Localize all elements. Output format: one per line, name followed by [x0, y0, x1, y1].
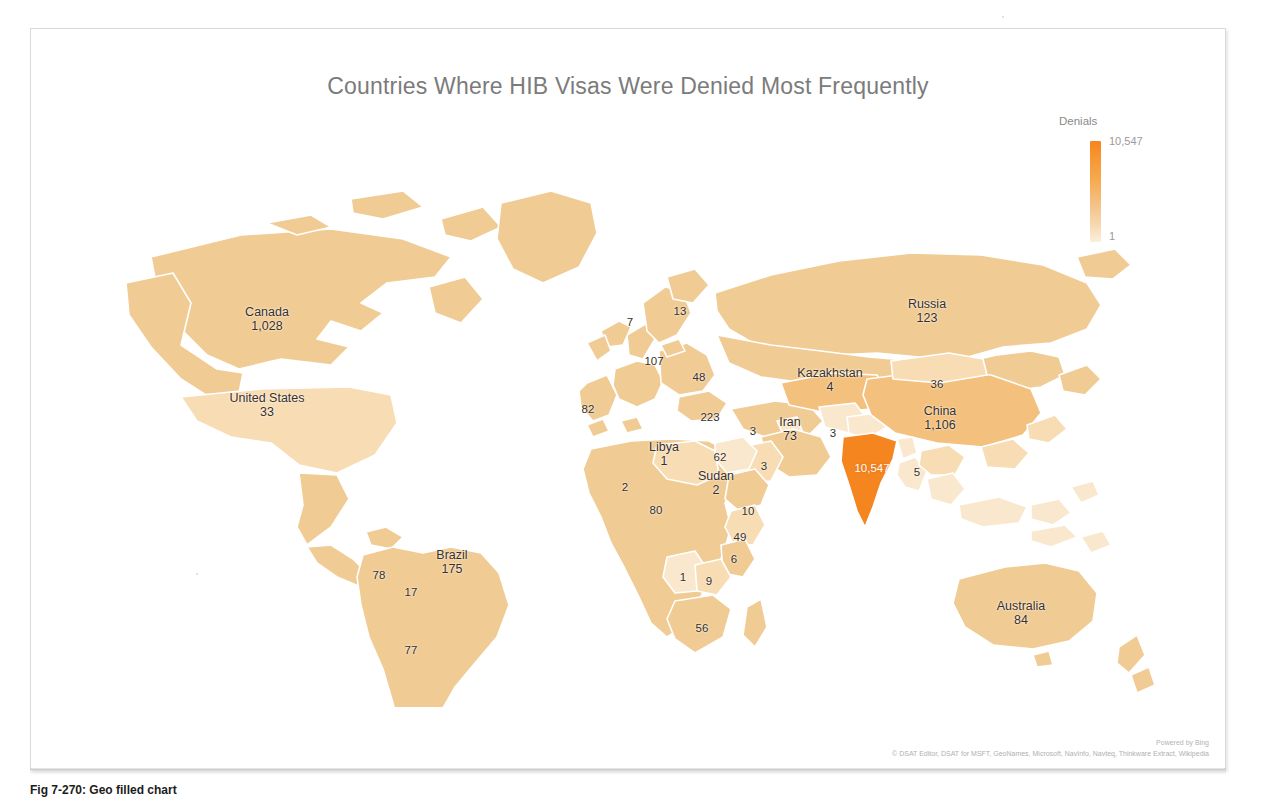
map-region-shape[interactable] [677, 391, 727, 421]
map-region-shape[interactable] [667, 269, 709, 303]
map-region-shape[interactable] [959, 497, 1027, 527]
map-region-shape[interactable] [151, 229, 451, 369]
screenshot-page: Countries Where HIB Visas Were Denied Mo… [0, 0, 1287, 803]
map-region-shape[interactable] [357, 547, 509, 707]
map-region-shape[interactable] [1131, 667, 1155, 693]
world-map-svg[interactable] [31, 107, 1226, 707]
map-region-shape[interactable] [919, 445, 965, 475]
map-region-shape[interactable] [579, 375, 617, 421]
map-region-shape[interactable] [351, 191, 423, 219]
map-region-shape[interactable] [1077, 249, 1131, 279]
geo-chart-card: Countries Where HIB Visas Were Denied Mo… [30, 28, 1226, 770]
map-region-shape[interactable] [1031, 499, 1071, 525]
map-region-shape[interactable] [297, 473, 349, 545]
map-region-shape[interactable] [613, 361, 663, 407]
powered-by-bing-text: Powered by Bing [892, 738, 1209, 749]
page-title: Countries Where HIB Visas Were Denied Mo… [31, 73, 1225, 100]
map-region-shape[interactable] [497, 191, 597, 283]
map-region-shape[interactable] [953, 563, 1097, 649]
map-region-shape[interactable] [743, 599, 767, 647]
scan-artifact-band [30, 768, 1226, 775]
map-region-shape[interactable] [927, 473, 965, 505]
map-region-shape[interactable] [1059, 365, 1101, 395]
map-region-shape[interactable] [897, 437, 917, 459]
map-region-shape[interactable] [1081, 531, 1111, 553]
map-region-shape[interactable] [366, 527, 403, 549]
map-region-shape[interactable] [181, 387, 397, 473]
map-region-shape[interactable] [667, 595, 731, 653]
map-region-shape[interactable] [841, 433, 897, 527]
map-region-shape[interactable] [863, 371, 1041, 447]
map-region-shape[interactable] [1031, 525, 1077, 547]
map-region-shape[interactable] [621, 417, 643, 433]
map-data-credits-text: © DSAT Editor, DSAT for MSFT, GeoNames, … [892, 749, 1209, 760]
map-region-shape[interactable] [441, 207, 501, 241]
map-region-shape[interactable] [715, 253, 1101, 359]
map-region-shape[interactable] [587, 419, 609, 437]
scan-speck [1002, 16, 1004, 18]
map-region-shape[interactable] [429, 277, 483, 323]
scan-speck [196, 573, 198, 575]
bing-attribution: Powered by Bing © DSAT Editor, DSAT for … [892, 738, 1209, 759]
map-region-shape[interactable] [1071, 481, 1099, 503]
map-region-shape[interactable] [1117, 635, 1145, 673]
figure-caption: Fig 7-270: Geo filled chart [30, 783, 730, 797]
map-region-shape[interactable] [1033, 651, 1053, 667]
world-map[interactable]: Canada1,028United States3378Brazil175177… [31, 107, 1226, 707]
